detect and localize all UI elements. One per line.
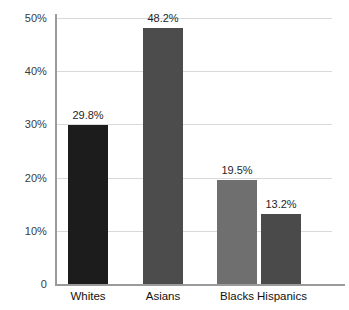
y-tick-label-30: 30%: [25, 119, 47, 130]
bar-value-asians: 48.2%: [143, 13, 183, 24]
gridline-40: [57, 71, 332, 72]
y-tick-label-0: 0: [41, 279, 47, 290]
bar-asians[interactable]: [143, 28, 183, 284]
y-tick-label-10: 10%: [25, 226, 47, 237]
bar-chart: 50% 40% 30% 20% 10% 0 29.8% 48.2% 19.5% …: [0, 0, 349, 310]
category-label-asians: Asians: [133, 289, 193, 303]
y-tick-label-20: 20%: [25, 173, 47, 184]
y-tick-label-40: 40%: [25, 66, 47, 77]
y-axis-line: [55, 14, 57, 285]
bar-value-hispanics: 13.2%: [261, 199, 301, 210]
category-label-whites: Whites: [58, 289, 118, 303]
bar-value-blacks: 19.5%: [217, 165, 257, 176]
bar-whites[interactable]: [68, 125, 108, 284]
y-tick-label-50: 50%: [25, 13, 47, 24]
bar-blacks[interactable]: [217, 180, 257, 284]
x-axis-line: [55, 284, 345, 286]
gridline-50: [57, 18, 332, 19]
bar-hispanics[interactable]: [261, 214, 301, 284]
category-label-hispanics: Hispanics: [248, 289, 316, 303]
bar-value-whites: 29.8%: [68, 110, 108, 121]
